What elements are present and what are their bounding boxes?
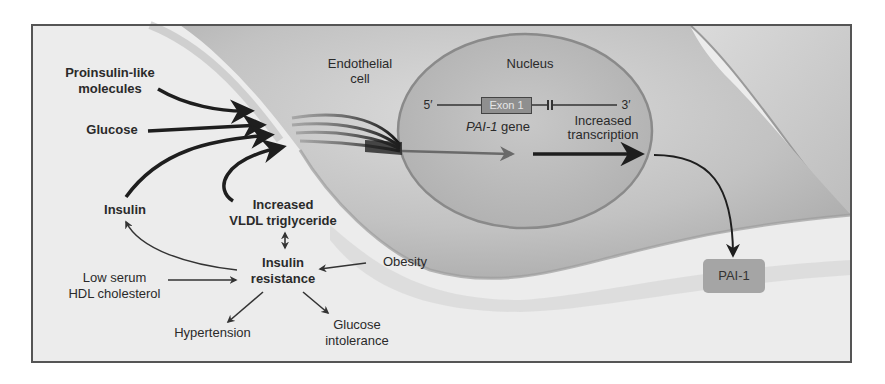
nucleus-label: Nucleus — [480, 56, 580, 71]
gene-suffix: gene — [498, 119, 531, 134]
three-prime-label: 3′ — [617, 98, 635, 113]
increased-transcription-label: Increased transcription — [548, 114, 658, 142]
glucose-label: Glucose — [72, 122, 152, 137]
endothelial-cell-label: Endothelial cell — [300, 56, 420, 86]
obesity-label: Obesity — [370, 254, 440, 269]
exon-1-box: Exon 1 — [481, 97, 532, 114]
glucose-intolerance-label: Glucose intolerance — [312, 317, 402, 349]
pai1-output-box: PAI-1 — [703, 259, 765, 293]
insulin-resistance-label: Insulin resistance — [238, 255, 328, 287]
proinsulin-label: Proinsulin-like molecules — [50, 65, 170, 97]
vldl-triglyceride-label: Increased VLDL triglyceride — [213, 197, 353, 229]
insulin-label: Insulin — [95, 202, 155, 217]
diagram-canvas: Endothelial cell Nucleus 5′ Exon 1 3′ PA… — [0, 0, 885, 384]
pai1-gene-label: PAI-1 gene — [448, 119, 548, 134]
hypertension-label: Hypertension — [160, 325, 265, 340]
gene-name: PAI-1 — [466, 119, 498, 134]
diagram-artwork — [0, 0, 885, 384]
low-hdl-label: Low serum HDL cholesterol — [52, 270, 177, 302]
five-prime-label: 5′ — [419, 98, 437, 113]
